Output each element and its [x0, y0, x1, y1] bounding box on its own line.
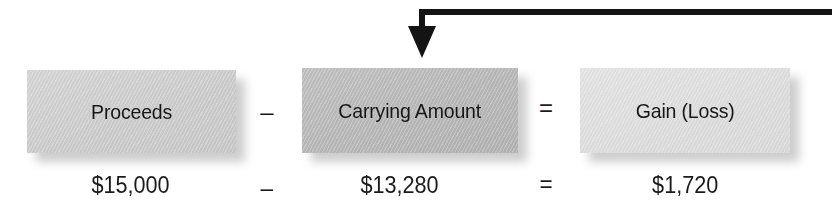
gain-loss-formula-diagram: Proceeds – Carrying Amount = Gain (Loss)…: [0, 0, 832, 211]
term-value-carrying-amount: $13,280: [300, 174, 500, 197]
term-box-proceeds-content: Proceeds: [27, 70, 236, 153]
term-label-gain-loss: Gain (Loss): [636, 100, 735, 121]
term-box-gain-loss: Gain (Loss): [580, 68, 790, 153]
term-label-carrying-amount: Carrying Amount: [339, 100, 482, 121]
term-value-proceeds-text: $15,000: [92, 174, 170, 197]
term-label-proceeds: Proceeds: [91, 101, 172, 122]
term-value-proceeds: $15,000: [31, 174, 231, 197]
term-box-gain-loss-content: Gain (Loss): [580, 68, 790, 153]
term-box-carrying-amount: Carrying Amount: [302, 68, 518, 153]
term-value-gain-loss: $1,720: [585, 174, 785, 197]
operator-minus-bottom-text: –: [261, 176, 274, 200]
operator-equals-bottom: =: [531, 172, 561, 196]
term-box-proceeds: Proceeds: [27, 70, 236, 153]
term-value-carrying-amount-text: $13,280: [361, 174, 439, 197]
operator-equals-bottom-text: =: [539, 172, 552, 196]
operator-minus-top: –: [252, 100, 282, 124]
operator-minus-bottom: –: [252, 176, 282, 200]
term-value-gain-loss-text: $1,720: [652, 174, 718, 197]
term-box-carrying-amount-content: Carrying Amount: [302, 68, 518, 153]
operator-equals-top: =: [531, 96, 561, 120]
